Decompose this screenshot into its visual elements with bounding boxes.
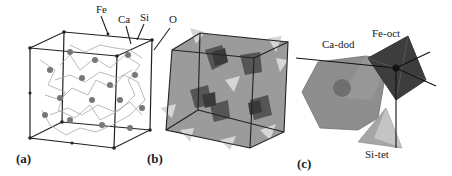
polyhedral-structure: [150, 0, 300, 176]
panel-label-b: (b): [147, 151, 163, 167]
atom-label-si: Si: [140, 11, 149, 23]
panel-a: Fe Ca Si (a): [0, 0, 155, 176]
atom-label-ca: Ca: [118, 13, 130, 25]
panel-label-a: (a): [16, 151, 31, 167]
ball-stick-structure: [0, 0, 160, 176]
atom-label-fe: Fe: [96, 3, 107, 15]
label-si-tet: Si-tet: [365, 148, 389, 160]
panel-b: O (b): [150, 0, 300, 176]
panel-label-c: (c): [297, 156, 311, 172]
label-fe-oct: Fe-oct: [372, 27, 400, 39]
atom-label-o: O: [169, 13, 177, 25]
label-ca-dod: Ca-dod: [322, 38, 354, 50]
panel-c: Ca-dod Fe-oct Si-tet (c): [290, 0, 452, 176]
